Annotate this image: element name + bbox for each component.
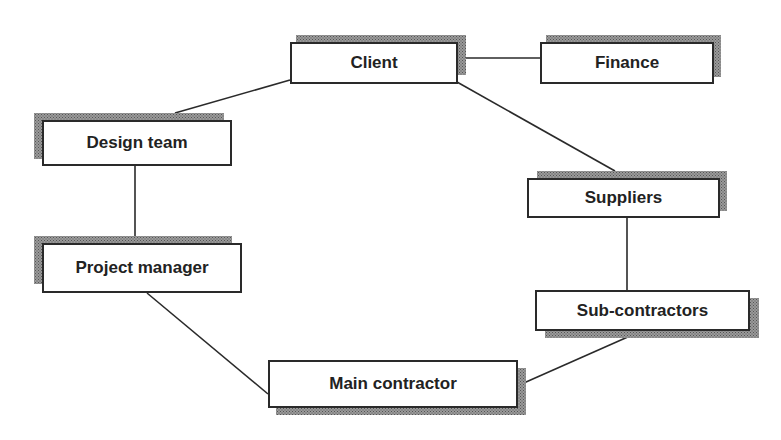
suppliers-label: Suppliers [585,188,662,208]
design-team-label: Design team [86,133,187,153]
main-contractor-box: Main contractor [268,360,518,408]
suppliers-box: Suppliers [527,178,720,218]
finance-box: Finance [540,42,714,84]
design-team-box: Design team [42,120,232,166]
sub-contractors-label: Sub-contractors [577,301,708,321]
main-contractor-label: Main contractor [329,374,457,394]
finance-label: Finance [595,53,659,73]
sub-contractors-box: Sub-contractors [535,290,750,331]
project-manager-box: Project manager [42,243,242,293]
edge-project-manager-main-contractor [147,293,268,394]
client-box: Client [290,42,458,84]
edge-main-contractor-sub-contractors [517,336,630,386]
edge-client-design-team [175,80,290,113]
project-manager-label: Project manager [75,258,208,278]
client-label: Client [350,53,397,73]
edge-client-suppliers [457,82,615,171]
